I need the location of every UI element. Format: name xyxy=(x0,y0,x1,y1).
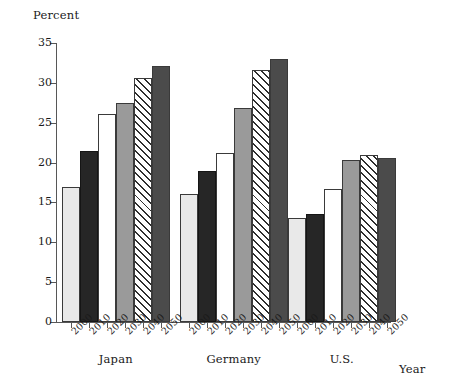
bar xyxy=(270,59,288,322)
group-label: Germany xyxy=(206,352,261,366)
bar xyxy=(234,108,252,322)
y-tick-label: 5 xyxy=(45,275,52,288)
bar xyxy=(116,103,134,322)
y-tick-label: 30 xyxy=(38,76,52,89)
bar xyxy=(288,218,306,322)
bar xyxy=(216,153,234,322)
bar xyxy=(180,194,198,322)
y-tick-label: 35 xyxy=(38,36,52,49)
bar xyxy=(134,78,152,322)
x-axis-group-labels: JapanGermanyU.S. xyxy=(56,352,391,370)
bar xyxy=(342,160,360,322)
bar xyxy=(252,70,270,322)
y-tick-label: 20 xyxy=(38,156,52,169)
bar xyxy=(62,187,80,322)
y-tick-label: 25 xyxy=(38,116,52,129)
bar xyxy=(324,189,342,322)
y-tick-label: 10 xyxy=(38,235,52,248)
bar-chart: Percent Year 05101520253035 200020102020… xyxy=(0,0,455,391)
bar xyxy=(80,151,98,322)
bar xyxy=(378,158,396,322)
bar xyxy=(306,214,324,322)
y-tick-label: 0 xyxy=(45,315,52,328)
group-label: U.S. xyxy=(330,352,354,366)
plot-area: 05101520253035 xyxy=(56,43,390,322)
bar xyxy=(98,114,116,322)
bar xyxy=(152,66,170,322)
bar xyxy=(198,171,216,322)
y-axis-label: Percent xyxy=(33,8,79,22)
bar xyxy=(360,155,378,322)
y-tick-label: 15 xyxy=(38,195,52,208)
group-label: Japan xyxy=(99,352,133,366)
x-axis-label: Year xyxy=(399,362,426,376)
